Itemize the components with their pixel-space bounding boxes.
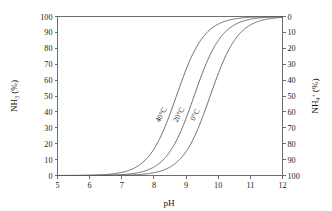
curve-label-text: 40°C	[153, 106, 168, 124]
x-tick-label: 11	[246, 181, 254, 190]
svg-text:NH4+ (%): NH4+ (%)	[310, 78, 321, 113]
y-tick-label-right: 80	[288, 140, 296, 149]
y-tick-label-left: 100	[40, 13, 52, 22]
data-curves	[58, 17, 283, 176]
y-tick-label-left: 30	[44, 124, 52, 133]
y-tick-label-right: 60	[288, 108, 296, 117]
y-tick-label-left: 70	[44, 60, 52, 69]
y-tick-label-left: 0	[48, 172, 52, 181]
x-tick-label: 8	[152, 181, 156, 190]
y-tick-label-left: 60	[44, 76, 52, 85]
y-tick-label-right: 100	[288, 172, 300, 181]
y-tick-label-left: 80	[44, 44, 52, 53]
axis-tick-labels: 0102030405060708090100010203040506070809…	[40, 13, 300, 190]
x-tick-label: 7	[120, 181, 124, 190]
chart-figure: 0102030405060708090100010203040506070809…	[0, 0, 332, 211]
x-tick-label: 12	[278, 181, 286, 190]
curve-20C	[58, 17, 283, 176]
curve-label-text: 0°C	[188, 107, 202, 122]
curve-labels: 40°C20°C0°C	[153, 106, 201, 124]
curve-label-20C: 20°C	[171, 106, 186, 124]
y-axis-title-right: NH4+ (%)	[310, 78, 321, 113]
axis-ticks	[55, 17, 286, 179]
y-tick-label-right: 40	[288, 76, 296, 85]
y-tick-label-right: 20	[288, 44, 296, 53]
y-tick-label-left: 50	[44, 92, 52, 101]
curve-label-40C: 40°C	[153, 106, 168, 124]
x-tick-label: 10	[214, 181, 222, 190]
y-axis-title-left: NH3 (%)	[9, 80, 20, 112]
x-tick-label: 9	[184, 181, 188, 190]
y-tick-label-left: 10	[44, 156, 52, 165]
svg-text:NH3 (%): NH3 (%)	[9, 80, 20, 112]
x-tick-label: 6	[88, 181, 92, 190]
y-tick-label-right: 30	[288, 60, 296, 69]
y-tick-label-left: 40	[44, 108, 52, 117]
y-tick-label-right: 90	[288, 156, 296, 165]
y-tick-label-right: 50	[288, 92, 296, 101]
y-tick-label-right: 70	[288, 124, 296, 133]
curve-label-text: 20°C	[171, 106, 186, 124]
curve-label-0C: 0°C	[188, 107, 202, 122]
y-tick-label-right: 0	[288, 13, 292, 22]
x-tick-label: 5	[55, 181, 59, 190]
x-axis-title: pH	[163, 198, 175, 208]
y-tick-label-right: 10	[288, 28, 296, 37]
ammonia-ph-speciation-chart: 0102030405060708090100010203040506070809…	[0, 0, 332, 211]
y-tick-label-left: 90	[44, 28, 52, 37]
y-tick-label-left: 20	[44, 140, 52, 149]
